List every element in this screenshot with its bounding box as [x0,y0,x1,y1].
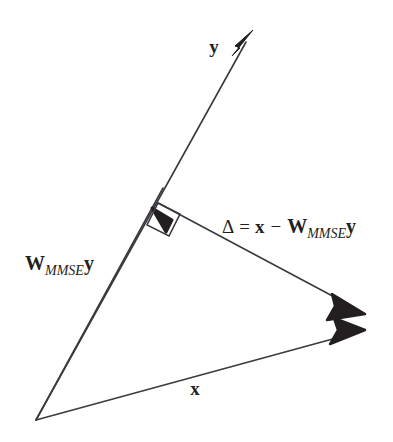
label-vector-x: x [190,378,200,399]
label-delta-equation-text: Δ=x−WMMSEy [222,215,356,241]
label-equals-glyph: = [239,216,250,237]
label-y-glyph: y [84,252,94,275]
label-mmse-subscript: MMSE [44,263,84,278]
vector-delta-arrowhead [327,294,365,320]
vector-y-arrowhead [232,30,253,56]
label-vector-y: y [209,36,219,57]
vector-x-arrowhead [330,318,365,344]
label-w-mmse-y-text: WMMSEy [25,252,94,278]
label-error-y-glyph: y [346,215,356,238]
vector-w-mmse-y-shaft [36,188,163,420]
vector-x-shaft [36,337,340,420]
vector-x [36,318,365,420]
vector-diagram: y x WMMSEy Δ=x−WMMSEy [0,0,393,442]
label-minus-glyph: − [270,216,281,237]
vector-w-mmse-y [36,188,172,420]
label-error-x-glyph: x [255,216,265,237]
label-w-glyph: W [25,252,45,274]
label-delta-equation: Δ=x−WMMSEy [222,215,356,241]
label-error-w-glyph: W [287,215,307,237]
label-w-mmse-y: WMMSEy [25,252,94,278]
label-error-mmse-subscript: MMSE [306,226,346,241]
label-delta-glyph: Δ [222,216,234,237]
diagram-canvas: y x WMMSEy Δ=x−WMMSEy [0,0,393,442]
